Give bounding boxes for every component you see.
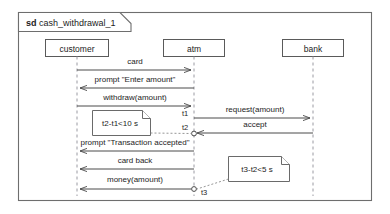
lifeline-label-bank: bank xyxy=(304,44,323,54)
message-label-withdraw: withdraw(amount) xyxy=(102,93,167,102)
message-label-card: card xyxy=(127,57,143,66)
message-label-accept: accept xyxy=(243,120,267,129)
note-text-timing-2: t3-t2<5 s xyxy=(241,165,272,174)
message-label-prompt-transaction-accepted: prompt "Transaction accepted" xyxy=(81,138,190,147)
note-text-timing-1: t2-t1<10 s xyxy=(102,119,138,128)
lifeline-label-customer: customer xyxy=(60,44,95,54)
message-label-money: money(amount) xyxy=(107,175,163,184)
lifeline-label-atm: atm xyxy=(187,44,201,54)
time-mark-t2: t2 xyxy=(182,123,188,132)
message-label-request: request(amount) xyxy=(226,105,285,114)
time-point-t2 xyxy=(192,131,197,136)
diagram-canvas: sd cash_withdrawal_1 customer atm bank c… xyxy=(0,0,390,214)
sequence-diagram: sd cash_withdrawal_1 customer atm bank c… xyxy=(0,0,390,214)
time-mark-t1: t1 xyxy=(182,109,188,118)
time-point-t3 xyxy=(192,187,197,192)
frame-keyword: sd xyxy=(26,18,37,28)
time-mark-t3: t3 xyxy=(201,188,207,197)
frame-name: cash_withdrawal_1 xyxy=(39,18,116,28)
message-label-prompt-enter-amount: prompt "Enter amount" xyxy=(95,75,176,84)
message-label-card-back: card back xyxy=(118,156,154,165)
